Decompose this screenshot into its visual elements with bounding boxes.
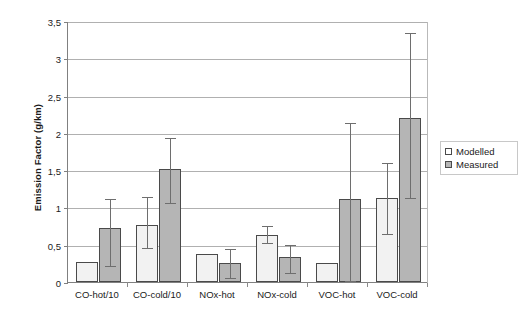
legend-swatch-modelled-icon	[445, 148, 452, 155]
legend-label-modelled: Modelled	[456, 146, 495, 157]
error-bar-line	[170, 138, 171, 203]
error-bar-line	[350, 123, 351, 280]
bar-modelled	[76, 262, 98, 282]
error-bar-line	[267, 226, 268, 243]
error-bar-cap-lower	[285, 273, 296, 274]
y-axis-tick	[64, 283, 68, 284]
plot-area: 00,511,522,533,5	[67, 22, 427, 283]
error-bar-cap-upper	[345, 123, 356, 124]
error-bar-line	[387, 163, 388, 234]
x-axis-tick	[307, 282, 308, 287]
category-group	[128, 21, 188, 282]
error-bar-cap-upper	[285, 245, 296, 246]
category-group	[188, 21, 248, 282]
legend-swatch-measured-icon	[445, 161, 452, 168]
y-axis-tick-label: 1	[56, 203, 61, 214]
x-axis-category-label: NOx-cold	[247, 289, 307, 300]
error-bar-line	[230, 249, 231, 278]
legend-item-measured: Measured	[445, 158, 514, 171]
error-bar-cap-lower	[105, 266, 116, 267]
error-bar-cap-lower	[225, 278, 236, 279]
legend-label-measured: Measured	[456, 159, 498, 170]
x-axis-category-label: VOC-cold	[367, 289, 427, 300]
error-bar-cap-upper	[405, 33, 416, 34]
emission-factor-bar-chart: Emission Factor (g/km) 00,511,522,533,5 …	[0, 0, 527, 326]
error-bar-cap-lower	[262, 243, 273, 244]
bar-modelled	[196, 254, 218, 282]
y-axis-tick-label: 2,5	[48, 91, 61, 102]
category-group	[368, 21, 428, 282]
y-axis-tick-label: 0,5	[48, 240, 61, 251]
x-axis-category-label: CO-cold/10	[127, 289, 187, 300]
y-axis-tick-label: 3	[56, 54, 61, 65]
x-axis-category-label: VOC-hot	[307, 289, 367, 300]
error-bar-line	[110, 199, 111, 265]
error-bar-cap-lower	[165, 203, 176, 204]
y-axis-tick-label: 1,5	[48, 166, 61, 177]
error-bar-cap-upper	[262, 226, 273, 227]
error-bar-cap-lower	[142, 248, 153, 249]
category-group	[68, 21, 128, 282]
error-bar-cap-lower	[345, 281, 356, 282]
plot-right-border	[427, 22, 428, 283]
chart-legend: Modelled Measured	[440, 141, 518, 175]
x-axis-category-label: NOx-hot	[187, 289, 247, 300]
y-axis-title: Emission Factor (g/km)	[32, 58, 43, 258]
x-axis-tick	[187, 282, 188, 287]
y-axis-tick-label: 0	[56, 278, 61, 289]
error-bar-cap-upper	[225, 249, 236, 250]
legend-item-modelled: Modelled	[445, 145, 514, 158]
x-axis-category-label: CO-hot/10	[67, 289, 127, 300]
category-group	[308, 21, 368, 282]
x-axis-tick	[127, 282, 128, 287]
error-bar-line	[147, 197, 148, 248]
error-bar-cap-lower	[405, 198, 416, 199]
x-axis-tick	[367, 282, 368, 287]
error-bar-cap-lower	[382, 234, 393, 235]
bar-modelled	[316, 263, 338, 282]
x-axis-tick	[247, 282, 248, 287]
error-bar-line	[410, 33, 411, 199]
y-axis-tick-label: 3,5	[48, 17, 61, 28]
error-bar-line	[290, 245, 291, 273]
error-bar-cap-upper	[105, 199, 116, 200]
error-bar-cap-upper	[382, 163, 393, 164]
error-bar-cap-upper	[142, 197, 153, 198]
category-group	[248, 21, 308, 282]
y-axis-tick-label: 2	[56, 128, 61, 139]
error-bar-cap-upper	[165, 138, 176, 139]
